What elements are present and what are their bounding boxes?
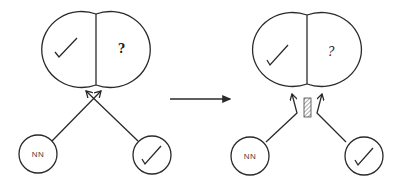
before-panel: ? NN — [19, 12, 171, 175]
before-cell: ? — [42, 12, 151, 88]
nn-label: NN — [244, 152, 257, 161]
hatched-barrier — [304, 98, 311, 117]
before-input-nn: NN — [19, 135, 57, 173]
after-arrow-from-check — [317, 94, 346, 142]
check-circle — [133, 136, 171, 174]
nn-label: NN — [32, 150, 45, 159]
after-cell: ? — [253, 13, 362, 87]
after-panel: ? NN — [231, 13, 383, 176]
before-cell-left-half — [42, 12, 96, 88]
after-arrow-from-nn — [266, 94, 297, 142]
diagram-canvas: ? NN ? NN — [0, 0, 401, 185]
before-arrow-from-check — [86, 91, 138, 141]
before-input-check — [133, 136, 171, 174]
question-mark-label: ? — [328, 45, 335, 59]
check-icon — [55, 38, 77, 57]
after-input-check — [345, 137, 383, 175]
check-icon — [355, 148, 373, 165]
after-cell-left-half — [253, 13, 307, 87]
question-mark-label: ? — [118, 42, 125, 56]
check-icon — [142, 146, 161, 164]
check-icon — [267, 45, 288, 65]
after-input-nn: NN — [231, 137, 269, 175]
check-circle — [345, 137, 383, 175]
